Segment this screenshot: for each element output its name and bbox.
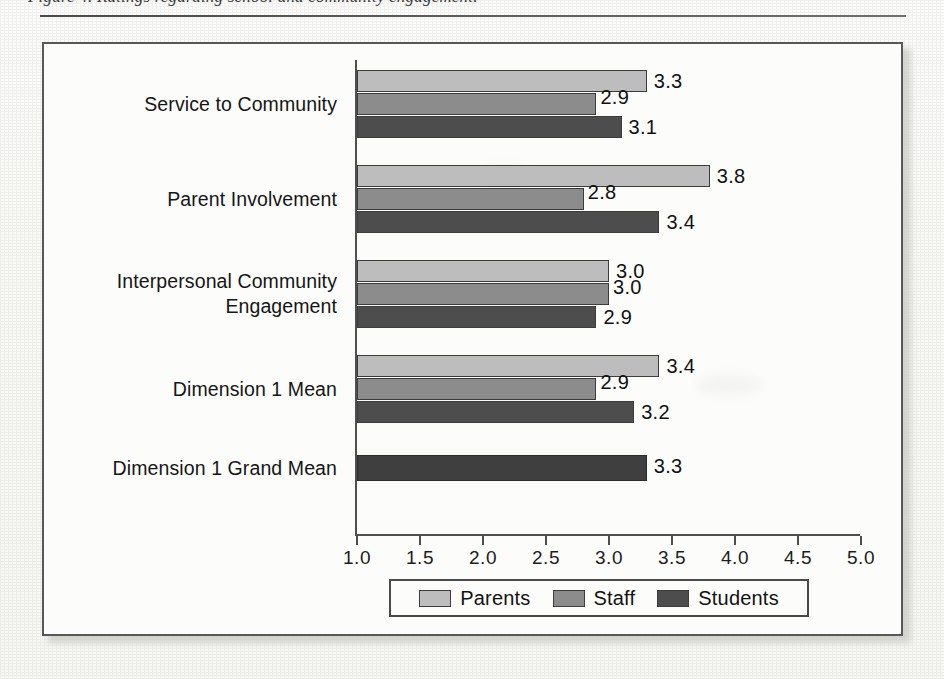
x-axis-tick (482, 536, 484, 545)
x-axis-tick (860, 536, 862, 545)
legend-swatch-students-icon (657, 590, 689, 607)
x-axis-tick (356, 536, 358, 545)
horizontal-rule (40, 15, 906, 17)
bar-value-label: 3.1 (629, 116, 658, 139)
category-label: Interpersonal Community Engagement (117, 269, 337, 319)
bar-value-label: 2.8 (588, 181, 617, 204)
bar-staff[interactable] (357, 188, 584, 210)
bar-staff[interactable] (357, 93, 596, 115)
bar-grand[interactable] (357, 455, 647, 481)
bar-value-label: 2.9 (600, 86, 629, 109)
legend-swatch-staff-icon (553, 590, 585, 607)
bar-students[interactable] (357, 116, 622, 138)
category-label: Dimension 1 Grand Mean (113, 456, 337, 481)
legend-label-parents: Parents (460, 587, 530, 610)
bar-value-label: 3.0 (613, 276, 642, 299)
category-label: Dimension 1 Mean (173, 377, 337, 402)
caption-text: Figure 4. Ratings regarding school and c… (28, 0, 478, 7)
x-axis-tick-label: 4.5 (784, 547, 812, 569)
bar-value-label: 3.8 (717, 165, 746, 188)
bar-staff[interactable] (357, 378, 596, 400)
legend-item-staff[interactable]: Staff (553, 587, 636, 610)
x-axis-tick-label: 1.0 (343, 547, 371, 569)
x-axis-tick (419, 536, 421, 545)
category-label: Service to Community (144, 92, 337, 117)
x-axis-tick (734, 536, 736, 545)
x-axis-tick-label: 3.5 (658, 547, 686, 569)
legend-label-students: Students (698, 587, 779, 610)
category-label: Parent Involvement (167, 187, 337, 212)
bar-students[interactable] (357, 306, 596, 328)
x-axis-tick-label: 2.0 (469, 547, 497, 569)
x-axis-tick (671, 536, 673, 545)
legend-label-staff: Staff (594, 587, 636, 610)
bar-value-label: 3.4 (666, 355, 695, 378)
bar-value-label: 3.4 (666, 211, 695, 234)
x-axis-tick-label: 2.5 (532, 547, 560, 569)
chart-plot-area: 1.01.52.02.53.03.54.04.55.0Service to Co… (44, 44, 905, 638)
x-axis-tick-label: 4.0 (721, 547, 749, 569)
page-caption-clipped: Figure 4. Ratings regarding school and c… (0, 0, 944, 14)
chart-frame: 1.01.52.02.53.03.54.04.55.0Service to Co… (42, 42, 903, 636)
legend-item-students[interactable]: Students (657, 587, 779, 610)
bar-value-label: 3.2 (641, 401, 670, 424)
bar-students[interactable] (357, 401, 634, 423)
x-axis-tick-label: 1.5 (406, 547, 434, 569)
x-axis-tick (608, 536, 610, 545)
legend-swatch-parents-icon (419, 590, 451, 607)
bar-value-label: 2.9 (603, 306, 632, 329)
scan-smudge (694, 374, 764, 396)
bar-students[interactable] (357, 211, 659, 233)
bar-parents[interactable] (357, 260, 609, 282)
x-axis-tick-label: 3.0 (595, 547, 623, 569)
x-axis-tick (797, 536, 799, 545)
x-axis-tick (545, 536, 547, 545)
bar-value-label: 2.9 (600, 371, 629, 394)
bar-value-label: 3.3 (654, 455, 683, 478)
chart-legend: Parents Staff Students (389, 579, 809, 617)
bar-value-label: 3.3 (654, 70, 683, 93)
legend-item-parents[interactable]: Parents (419, 587, 530, 610)
bar-staff[interactable] (357, 283, 609, 305)
x-axis-tick-label: 5.0 (847, 547, 875, 569)
bar-parents[interactable] (357, 165, 710, 187)
